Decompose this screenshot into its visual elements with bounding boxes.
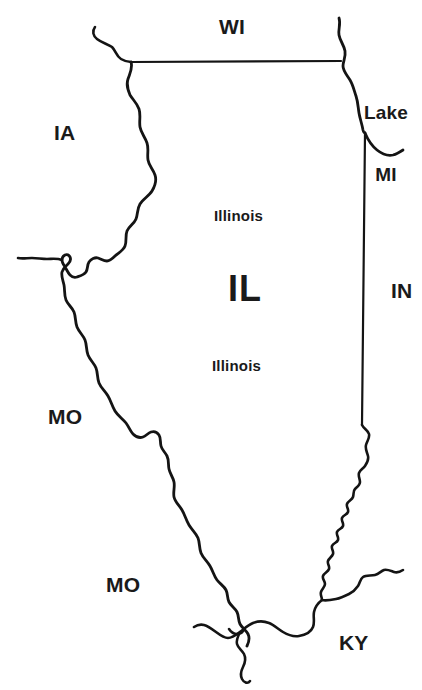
label-kentucky: KY bbox=[339, 632, 369, 655]
label-iowa: IA bbox=[54, 122, 75, 145]
label-indiana: IN bbox=[391, 280, 412, 303]
ohio-river-southern-border-east bbox=[322, 570, 403, 601]
tributary-river-branch bbox=[18, 258, 62, 260]
wabash-river-southeastern-border bbox=[321, 425, 369, 600]
map-canvas: WI Lake MI IA Illinois IL IN Illinois MO… bbox=[0, 0, 422, 690]
label-missouri-south: MO bbox=[106, 574, 140, 597]
label-missouri-north: MO bbox=[48, 406, 82, 429]
wisconsin-illinois-border bbox=[131, 61, 341, 62]
mississippi-river-north-segment bbox=[93, 27, 131, 62]
label-illinois-north: Illinois bbox=[214, 208, 263, 224]
label-lake-michigan-line2: MI bbox=[358, 165, 414, 186]
label-wisconsin: WI bbox=[219, 16, 245, 39]
mississippi-river-western-border bbox=[62, 62, 249, 646]
label-illinois-south: Illinois bbox=[212, 358, 261, 374]
label-illinois-abbr: IL bbox=[228, 270, 262, 309]
ohio-river-southern-border-middle bbox=[194, 600, 322, 638]
label-lake-michigan: Lake MI bbox=[358, 62, 414, 226]
label-lake-michigan-line1: Lake bbox=[358, 103, 414, 124]
